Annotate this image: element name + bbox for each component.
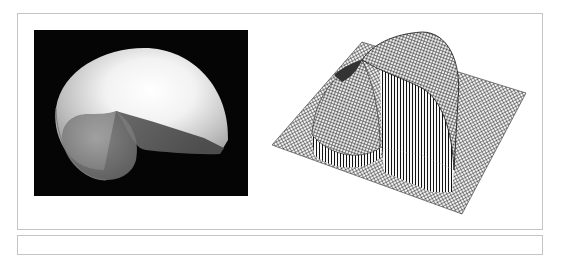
mesh-surface-plot — [262, 20, 537, 225]
nautilus-shell-image — [34, 30, 248, 196]
wireframe-surface — [262, 20, 537, 225]
next-figure-frame — [17, 235, 543, 255]
shell-render — [34, 30, 248, 196]
